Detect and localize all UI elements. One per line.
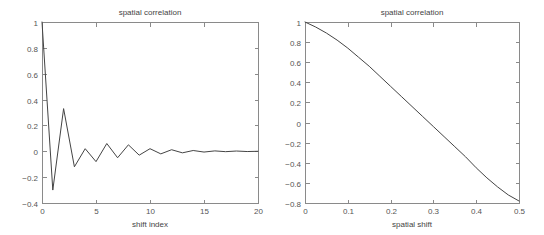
y-tick-label: 1 <box>34 19 39 28</box>
x-tick-label: 0.2 <box>386 207 398 216</box>
data-series-line <box>305 22 519 201</box>
plot-box-border <box>306 23 520 204</box>
data-series-line <box>42 22 258 190</box>
chart-panel-left: 05101520−0.4−0.200.20.40.60.81spatial co… <box>0 0 272 235</box>
x-tick-label: 5 <box>94 207 99 216</box>
x-tick-label: 20 <box>254 207 263 216</box>
y-tick-label: −0.2 <box>285 140 301 149</box>
x-axis-label: shift index <box>132 220 168 229</box>
figure-canvas: 05101520−0.4−0.200.20.40.60.81spatial co… <box>0 0 544 235</box>
right-plot-svg: 00.10.20.30.40.5−0.8−0.6−0.4−0.200.20.40… <box>272 0 544 235</box>
y-tick-label: 0.2 <box>290 99 302 108</box>
x-tick-label: 0.5 <box>514 207 526 216</box>
left-plot-svg: 05101520−0.4−0.200.20.40.60.81spatial co… <box>0 0 272 235</box>
y-tick-label: 0.6 <box>290 59 302 68</box>
y-tick-label: −0.6 <box>285 180 301 189</box>
y-tick-label: −0.8 <box>285 200 301 209</box>
y-tick-label: −0.4 <box>285 160 301 169</box>
y-tick-label: 0.4 <box>27 97 39 106</box>
plot-title: spatial correlation <box>119 8 182 17</box>
x-tick-label: 0.1 <box>343 207 355 216</box>
y-tick-label: 0.4 <box>290 79 302 88</box>
x-tick-label: 15 <box>200 207 209 216</box>
y-tick-label: 0.6 <box>27 71 39 80</box>
plot-box-border <box>43 23 259 204</box>
y-tick-label: 0.8 <box>27 45 39 54</box>
x-tick-label: 0.4 <box>471 207 483 216</box>
y-tick-label: 0 <box>297 120 302 129</box>
y-tick-label: 0 <box>34 148 39 157</box>
chart-panel-right: 00.10.20.30.40.5−0.8−0.6−0.4−0.200.20.40… <box>272 0 544 235</box>
x-tick-label: 0.3 <box>428 207 440 216</box>
x-tick-label: 10 <box>146 207 155 216</box>
y-tick-label: 0.2 <box>27 122 39 131</box>
x-tick-label: 0 <box>40 207 45 216</box>
x-axis-label: spatial shift <box>392 220 433 229</box>
y-tick-label: −0.2 <box>22 174 38 183</box>
y-tick-label: −0.4 <box>22 200 38 209</box>
x-tick-label: 0 <box>303 207 308 216</box>
plot-title: spatial correlation <box>381 8 444 17</box>
y-tick-label: 1 <box>297 19 302 28</box>
y-tick-label: 0.8 <box>290 39 302 48</box>
